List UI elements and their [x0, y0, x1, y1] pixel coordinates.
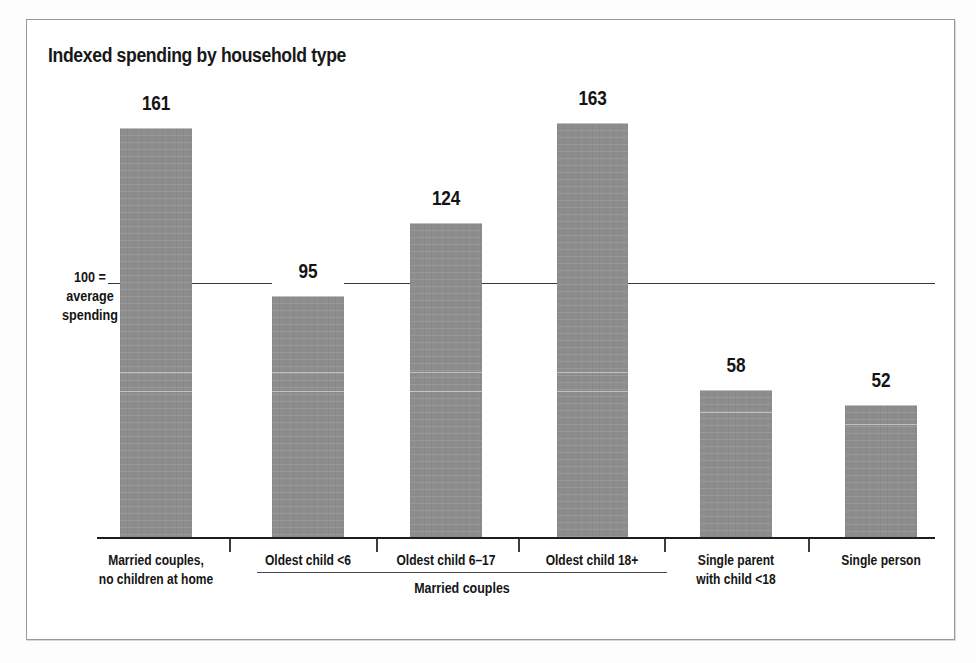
category-label-single-person: Single person	[821, 551, 941, 570]
bar-value-label: 52	[850, 369, 912, 392]
bar-value-label: 95	[277, 260, 339, 283]
bar-value-label: 161	[125, 92, 187, 115]
category-label-line2: with child <18	[696, 571, 775, 587]
chart-figure: Indexed spending by household type 100 =…	[0, 0, 976, 663]
reference-label-line3: spending	[50, 306, 130, 325]
reference-line-segment-3	[344, 283, 410, 284]
category-label-line1: Oldest child 18+	[546, 552, 639, 568]
category-label-oldest-child-18-plus: Oldest child 18+	[532, 551, 652, 570]
group-bracket-line	[257, 572, 667, 573]
plot-area: 100 = average spending 161 95 124 163 58…	[0, 0, 976, 663]
group-bracket-label: Married couples	[286, 580, 639, 596]
category-label-oldest-child-6-17: Oldest child 6–17	[386, 551, 506, 570]
category-label-line1: Single person	[841, 552, 921, 568]
reference-line-segment-2	[192, 283, 272, 284]
category-label-line2: no children at home	[99, 571, 213, 587]
axis-tick	[229, 539, 231, 552]
axis-tick	[518, 539, 520, 552]
bar-oldest-child-under-6	[272, 296, 344, 537]
category-label-oldest-child-under-6: Oldest child <6	[248, 551, 368, 570]
reference-label-line2: average	[50, 287, 130, 306]
category-label-line1: Oldest child 6–17	[396, 552, 495, 568]
bar-oldest-child-18-plus	[557, 123, 628, 537]
category-label-married-no-children: Married couples, no children at home	[96, 551, 216, 589]
reference-line-label: 100 = average spending	[50, 268, 130, 325]
bar-value-label: 58	[705, 354, 767, 377]
reference-line-segment-4	[482, 283, 557, 284]
bar-single-person	[845, 405, 917, 537]
category-label-single-parent: Single parent with child <18	[676, 551, 796, 589]
bar-value-label: 124	[415, 187, 477, 210]
reference-line-segment-5	[628, 283, 935, 284]
bar-value-label: 163	[562, 87, 623, 110]
category-label-line1: Married couples,	[108, 552, 204, 568]
bar-single-parent-with-child	[700, 390, 772, 537]
axis-tick	[664, 539, 666, 552]
reference-label-line1: 100 =	[50, 268, 130, 287]
category-label-line1: Oldest child <6	[265, 552, 351, 568]
category-label-line1: Single parent	[698, 552, 774, 568]
bar-oldest-child-6-17	[410, 223, 482, 537]
axis-tick	[376, 539, 378, 552]
axis-tick	[808, 539, 810, 552]
bar-married-couples-no-children	[120, 128, 192, 537]
